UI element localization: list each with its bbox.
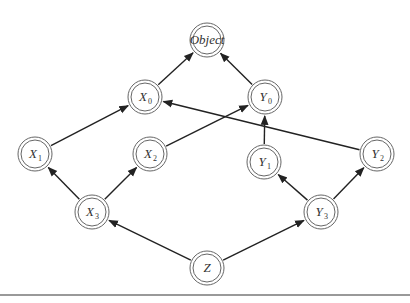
edge-z-to-y3 bbox=[223, 220, 304, 260]
node-label: X bbox=[28, 146, 38, 161]
edge-y3-to-y1 bbox=[278, 175, 307, 201]
node-x0: X0 bbox=[128, 80, 162, 114]
node-label: X bbox=[143, 146, 153, 161]
edge-x2-to-y0 bbox=[166, 105, 248, 146]
node-label: Z bbox=[203, 260, 211, 275]
edge-z-to-x3 bbox=[109, 220, 191, 260]
node-y2: Y2 bbox=[360, 137, 394, 171]
inheritance-diagram: ObjectX0Y0X1X2Y1Y2X3Y3Z bbox=[0, 0, 410, 303]
node-subscript: 3 bbox=[324, 212, 328, 221]
node-x1: X1 bbox=[18, 137, 52, 171]
node-label: X bbox=[85, 204, 95, 219]
node-subscript: 1 bbox=[38, 154, 42, 163]
node-subscript: 2 bbox=[380, 154, 384, 163]
node-y0: Y0 bbox=[248, 80, 282, 114]
edge-x3-to-x2 bbox=[105, 167, 137, 199]
node-x3: X3 bbox=[75, 195, 109, 229]
node-subscript: 2 bbox=[153, 154, 157, 163]
node-subscript: 3 bbox=[95, 212, 99, 221]
node-subscript: 0 bbox=[268, 97, 272, 106]
node-label: Object bbox=[190, 32, 225, 47]
edge-y3-to-y2 bbox=[334, 168, 364, 199]
node-object: Object bbox=[190, 23, 225, 57]
edge-x0-to-object bbox=[158, 53, 193, 85]
node-z: Z bbox=[190, 251, 224, 285]
node-label: X bbox=[138, 89, 148, 104]
node-y3: Y3 bbox=[304, 195, 338, 229]
edge-x3-to-x1 bbox=[48, 168, 79, 200]
node-subscript: 1 bbox=[267, 162, 271, 171]
node-subscript: 0 bbox=[148, 97, 152, 106]
node-x2: X2 bbox=[133, 137, 167, 171]
edge-x1-to-x0 bbox=[51, 106, 128, 146]
nodes-group: ObjectX0Y0X1X2Y1Y2X3Y3Z bbox=[18, 23, 394, 285]
node-y1: Y1 bbox=[247, 145, 281, 179]
edge-y0-to-object bbox=[221, 53, 253, 84]
horizontal-rule bbox=[0, 294, 410, 296]
